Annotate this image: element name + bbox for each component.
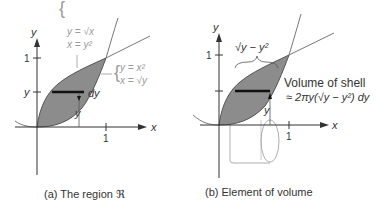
panel-a: x y 1 1 y dy y { y = √x x = y² { y = x² … bbox=[15, 0, 157, 200]
figure: x y 1 1 y dy y { y = √x x = y² { y = x² … bbox=[0, 0, 390, 215]
lower-curve-eq2: x = √y bbox=[119, 75, 148, 86]
y-axis-arrow-icon bbox=[34, 38, 40, 47]
dy-label: dy bbox=[88, 87, 101, 99]
tick-x1-label-b: 1 bbox=[286, 131, 292, 142]
upper-curve-eq1: y = √x bbox=[66, 26, 95, 37]
tick-y-label: y bbox=[23, 86, 31, 98]
y-axis-label-b: y bbox=[212, 21, 220, 33]
tick-y1-label-b: 1 bbox=[206, 50, 212, 61]
curve-left-extension bbox=[15, 121, 37, 127]
curve-y-equals-x-squared-b bbox=[289, 14, 301, 55]
curve-y-equals-x-squared bbox=[106, 18, 118, 58]
curve-x-equals-y-squared bbox=[106, 36, 150, 58]
tick-x1-label: 1 bbox=[103, 133, 109, 144]
y-axis-arrow-icon-b bbox=[216, 33, 222, 42]
y-axis-label: y bbox=[30, 26, 38, 38]
caption-b: (b) Element of volume bbox=[205, 186, 313, 198]
tick-y1-label: 1 bbox=[24, 53, 30, 64]
x-axis-label-b: x bbox=[331, 119, 338, 131]
volume-title: Volume of shell bbox=[284, 76, 365, 90]
upper-curve-eq2: x = y² bbox=[66, 39, 92, 50]
panel-b: x y 1 1 y √y − y² Volume of shell ≈ 2πy(… bbox=[193, 14, 371, 198]
x-axis-label: x bbox=[150, 121, 157, 133]
x-axis-arrow-icon bbox=[138, 124, 147, 130]
volume-formula: ≈ 2πy(√y − y²) dy bbox=[286, 91, 371, 103]
curve-left-extension-b bbox=[193, 115, 219, 125]
shell-near-ellipse bbox=[261, 120, 279, 162]
width-label: √y − y² bbox=[235, 41, 269, 53]
caption-a: (a) The region ℜ bbox=[44, 188, 125, 200]
lower-curve-eq1: y = x² bbox=[119, 62, 145, 73]
curve-x-equals-y-squared-b bbox=[289, 33, 334, 55]
brace-upper: { bbox=[59, 0, 65, 18]
x-axis-arrow-icon-b bbox=[320, 122, 329, 128]
